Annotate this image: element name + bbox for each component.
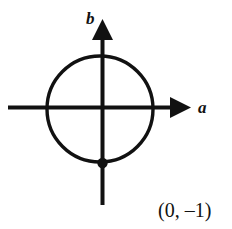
horizontal-axis-label: a bbox=[198, 99, 207, 116]
horizontal-axis-arrowhead bbox=[170, 97, 191, 118]
plotted-point-marker bbox=[97, 158, 107, 168]
coordinate-plane-figure: b a (0, –1) bbox=[0, 0, 232, 229]
vertical-axis-label: b bbox=[86, 10, 95, 27]
point-coordinate-label: (0, –1) bbox=[158, 200, 211, 220]
vertical-axis-arrowhead bbox=[92, 19, 113, 40]
